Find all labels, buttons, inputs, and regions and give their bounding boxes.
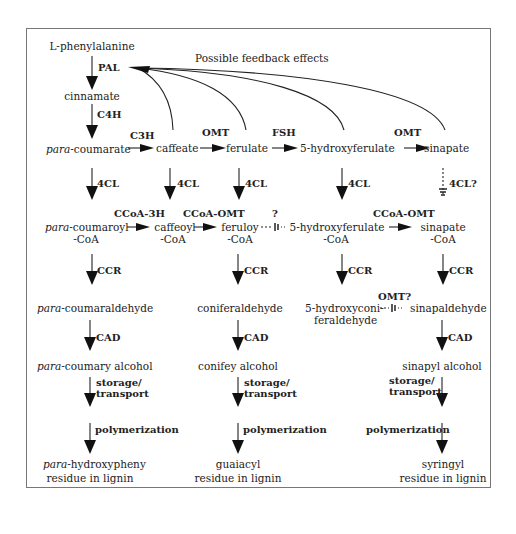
- italic-prefix: para: [46, 143, 70, 155]
- compound-hydroxyconiferaldehyde-line2: feraldehyde: [314, 314, 377, 326]
- italic-prefix: para: [45, 221, 69, 233]
- compound-coniferaldehyde: coniferaldehyde: [197, 302, 283, 314]
- enzyme-4cl-1: 4CL: [97, 178, 119, 190]
- compound-hydroxyferulate-coa-line2: -CoA: [323, 233, 349, 245]
- label-transport-1: transport: [96, 388, 149, 400]
- label-transport-3: transport: [389, 386, 442, 398]
- compound-suffix: -coumary alcohol: [61, 360, 152, 372]
- compound-sinapaldehyde: sinapaldehyde: [410, 302, 487, 314]
- enzyme-pal: PAL: [98, 62, 120, 74]
- compound-phenylalanine: L-phenylalanine: [49, 40, 134, 52]
- feedback-note: Possible feedback effects: [195, 52, 329, 64]
- compound-syringyl-residue: syringyl: [422, 458, 464, 470]
- enzyme-ccoa-omt-2: CCoA-OMT: [373, 208, 435, 220]
- compound-cinnamate: cinnamate: [64, 90, 120, 102]
- compound-coumaroyl-coa: para-coumaroyl: [45, 221, 129, 233]
- compound-feruloy-coa: feruloy: [221, 221, 259, 233]
- enzyme-ccoa-3h: CCoA-3H: [114, 208, 165, 220]
- compound-sinapyl-alcohol: sinapyl alcohol: [402, 360, 481, 372]
- enzyme-4cl-3: 4CL: [245, 178, 267, 190]
- label-transport-2: transport: [244, 388, 297, 400]
- compound-hydroxyconiferaldehyde: 5-hydroxyconi-: [305, 302, 384, 314]
- compound-hydroxyphenyl-residue: para-hydroxypheny: [43, 458, 146, 470]
- enzyme-ccr-2: CCR: [244, 265, 268, 277]
- italic-prefix: para: [37, 302, 61, 314]
- compound-coumaraldehyde: para-coumaraldehyde: [37, 302, 153, 314]
- enzyme-ccr-3: CCR: [348, 265, 372, 277]
- enzyme-cad-1: CAD: [96, 332, 120, 344]
- compound-coumaryl-alcohol: para-coumary alcohol: [37, 360, 153, 372]
- compound-caffeoyl-coa: caffeoyl: [154, 221, 195, 233]
- enzyme-4cl-4: 4CL: [348, 178, 370, 190]
- compound-hydroxyferulate-coa: 5-hydroxyferulate: [290, 221, 385, 233]
- compound-hydroxyphenyl-residue-line2: residue in lignin: [47, 472, 134, 484]
- compound-feruloy-coa-line2: -CoA: [227, 233, 253, 245]
- italic-prefix: para: [43, 458, 67, 470]
- compound-suffix: -coumaraldehyde: [61, 302, 153, 314]
- enzyme-fsh: FSH: [272, 127, 296, 139]
- compound-sinapate-coa: sinapate: [420, 221, 465, 233]
- compound-sinapate: sinapate: [424, 142, 469, 154]
- compound-guaiacyl-residue: guaiacyl: [216, 458, 261, 470]
- compound-suffix: -coumarate: [70, 143, 130, 155]
- compound-coumarate: para-coumarate: [46, 143, 131, 155]
- enzyme-unknown: ?: [272, 208, 278, 220]
- enzyme-cad-3: CAD: [448, 332, 472, 344]
- enzyme-4cl-5: 4CL?: [449, 178, 477, 190]
- compound-ferulate: ferulate: [226, 142, 268, 154]
- compound-sinapate-coa-line2: -CoA: [430, 233, 456, 245]
- enzyme-c4h: C4H: [97, 109, 121, 121]
- enzyme-ccr-1: CCR: [97, 265, 121, 277]
- compound-coniferyl-alcohol: conifey alcohol: [198, 360, 278, 372]
- compound-coumaroyl-coa-line2: -CoA: [73, 233, 99, 245]
- enzyme-4cl-2: 4CL: [177, 178, 199, 190]
- compound-guaiacyl-residue-line2: residue in lignin: [195, 472, 282, 484]
- enzyme-ccr-4: CCR: [449, 265, 473, 277]
- compound-suffix: -hydroxypheny: [67, 458, 146, 470]
- enzyme-omt-2: OMT: [394, 127, 421, 139]
- enzyme-cad-2: CAD: [244, 332, 268, 344]
- compound-hydroxyferulate: 5-hydroxyferulate: [300, 142, 395, 154]
- compound-caffeoyl-coa-line2: -CoA: [160, 233, 186, 245]
- label-polymerization-3: polymerization: [366, 424, 450, 436]
- label-polymerization-1: polymerization: [95, 424, 179, 436]
- compound-syringyl-residue-line2: residue in lignin: [400, 472, 487, 484]
- compound-caffeate: caffeate: [156, 142, 199, 154]
- compound-suffix: -coumaroyl: [69, 221, 128, 233]
- italic-prefix: para: [37, 360, 61, 372]
- enzyme-c3h: C3H: [130, 130, 154, 142]
- label-polymerization-2: polymerization: [243, 424, 327, 436]
- enzyme-omt-1: OMT: [202, 127, 229, 139]
- enzyme-ccoa-omt-1: CCoA-OMT: [183, 208, 245, 220]
